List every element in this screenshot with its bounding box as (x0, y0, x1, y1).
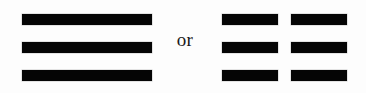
kun-line-1-left-segment (222, 14, 278, 25)
kun-line-2-left-segment (222, 42, 278, 53)
kun-line-3-right-segment (291, 70, 347, 81)
trigram-figure: or (0, 0, 366, 93)
kun-line-3-left-segment (222, 70, 278, 81)
qian-line-3 (22, 70, 152, 81)
kun-line-2-right-segment (291, 42, 347, 53)
conjunction-label: or (162, 29, 208, 51)
qian-line-2 (22, 42, 152, 53)
kun-line-1-right-segment (291, 14, 347, 25)
qian-line-1 (22, 14, 152, 25)
